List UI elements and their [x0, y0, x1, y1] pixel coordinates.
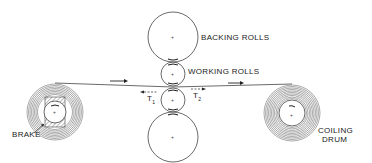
tension-t2-subscript: 2: [198, 96, 201, 102]
coiling-drum: +: [264, 85, 320, 141]
tension-t1-label: T1: [147, 95, 155, 105]
strip-direction-arrow-right: [228, 81, 244, 85]
upper-working-roll: +: [161, 62, 185, 86]
svg-text:+: +: [171, 71, 174, 77]
svg-text:+: +: [53, 109, 56, 115]
lower-working-roll: +: [161, 88, 185, 112]
coiling-drum-label-line2: DRUM: [322, 136, 347, 144]
bottom-backing-roll: +: [148, 112, 198, 162]
strip-direction-arrow-left: [110, 79, 128, 83]
svg-text:+: +: [290, 112, 293, 118]
svg-text:+: +: [171, 134, 174, 140]
working-rolls-label: WORKING ROLLS: [188, 68, 259, 76]
coiling-drum-label-line1: COILING: [318, 127, 353, 135]
backing-rolls-label: BACKING ROLLS: [201, 34, 269, 42]
svg-text:+: +: [171, 97, 174, 103]
svg-text:+: +: [171, 34, 174, 40]
diagram-drawing: + + + +: [0, 0, 372, 163]
top-backing-roll: +: [148, 12, 198, 62]
tension-t1-subscript: 1: [152, 99, 155, 105]
tension-t2-label: T2: [193, 92, 201, 102]
rolling-mill-diagram: + + + +: [0, 0, 372, 163]
brake-label: BRAKE: [12, 131, 41, 139]
